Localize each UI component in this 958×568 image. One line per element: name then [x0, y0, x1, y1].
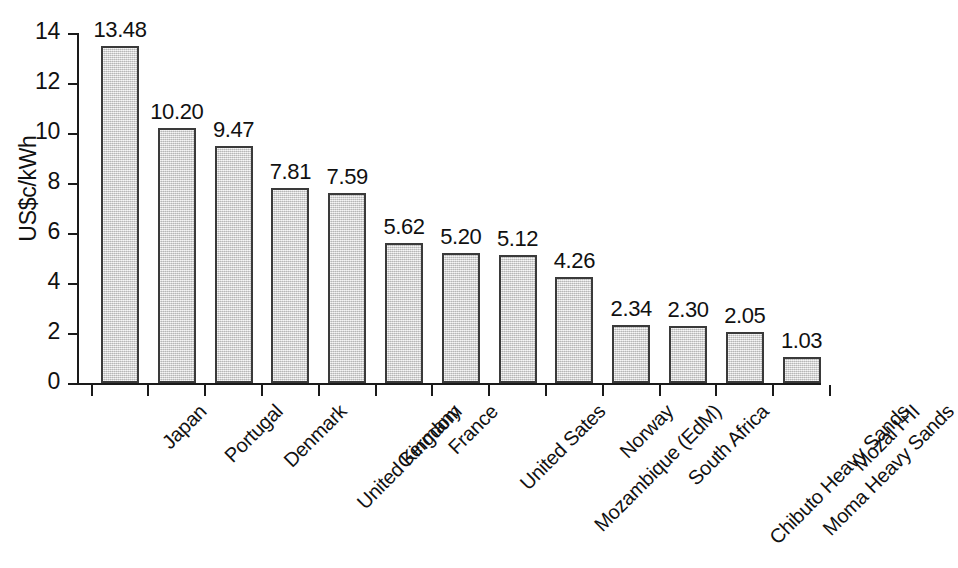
y-axis-tick-label: 14 — [20, 18, 60, 45]
x-axis-line — [77, 383, 821, 385]
y-axis-tick-label: 6 — [20, 218, 60, 245]
bar-value-label: 9.47 — [189, 117, 279, 143]
x-axis-tick-mark — [261, 385, 263, 396]
bar — [499, 255, 537, 383]
bar — [612, 325, 650, 384]
x-axis-tick-mark — [829, 385, 831, 396]
x-axis-tick-mark — [659, 385, 661, 396]
x-axis-tick-mark — [715, 385, 717, 396]
y-axis-tick-label: 4 — [20, 268, 60, 295]
x-axis-tick-mark — [204, 385, 206, 396]
y-axis-tick-label: 8 — [20, 168, 60, 195]
x-axis-tick-mark — [772, 385, 774, 396]
x-axis-tick-mark — [91, 385, 93, 396]
bar — [271, 188, 309, 383]
y-axis-line — [77, 33, 79, 384]
x-axis-category-label: United Sates — [515, 400, 610, 495]
bar — [101, 46, 139, 383]
x-axis-tick-mark — [545, 385, 547, 396]
bar-value-label: 7.59 — [302, 164, 392, 190]
x-axis-category-label: Denmark — [279, 400, 351, 472]
x-axis-tick-mark — [147, 385, 149, 396]
x-axis-tick-mark — [602, 385, 604, 396]
x-axis-tick-mark — [431, 385, 433, 396]
x-axis-category-label: Japan — [158, 400, 212, 454]
x-axis-tick-mark — [488, 385, 490, 396]
x-axis-tick-mark — [318, 385, 320, 396]
bar-value-label: 13.48 — [75, 17, 165, 43]
bar — [783, 357, 821, 383]
bar — [669, 326, 707, 384]
x-axis-category-label: Portugal — [220, 400, 287, 467]
bar-value-label: 4.26 — [529, 248, 619, 274]
bar-value-label: 2.05 — [700, 303, 790, 329]
bar — [442, 253, 480, 383]
x-axis-tick-mark — [375, 385, 377, 396]
y-axis-tick-label: 0 — [20, 368, 60, 395]
y-axis-tick-label: 10 — [20, 118, 60, 145]
y-axis-tick-label: 12 — [20, 68, 60, 95]
bar — [158, 128, 196, 383]
bar — [385, 243, 423, 384]
bar — [555, 277, 593, 384]
bar-value-label: 1.03 — [757, 328, 847, 354]
y-axis-tick-label: 2 — [20, 318, 60, 345]
